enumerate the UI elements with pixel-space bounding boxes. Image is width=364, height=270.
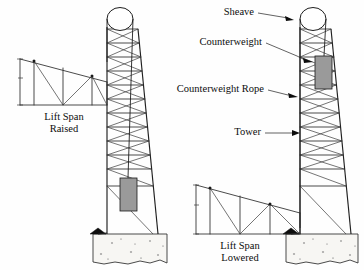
left-caption-line2: Raised — [50, 123, 79, 134]
left-counterweight — [120, 178, 137, 211]
right-counterweight — [315, 56, 332, 89]
callout-group: Sheave Counterweight Counterweight Rope … — [177, 6, 313, 137]
left-sheave — [107, 8, 133, 31]
right-caption-line1: Lift Span — [220, 240, 260, 251]
right-lift-span-truss — [193, 185, 300, 234]
figure-root: Lift Span Raised — [0, 0, 364, 270]
bridge-diagram: Lift Span Raised — [0, 0, 364, 270]
right-caption-line2: Lowered — [221, 252, 259, 263]
callout-counterweight: Counterweight — [200, 36, 313, 63]
right-sheave — [300, 8, 326, 31]
left-caption-line1: Lift Span — [44, 111, 84, 122]
left-lift-span-truss — [17, 59, 107, 105]
callout-counterweight-label: Counterweight — [200, 36, 262, 47]
callout-tower-label: Tower — [234, 126, 261, 137]
callout-tower: Tower — [234, 126, 300, 137]
right-counterweight-rope — [300, 19, 326, 228]
callout-sheave-label: Sheave — [224, 6, 255, 17]
callout-counterweight-rope-label: Counterweight Rope — [177, 83, 265, 94]
left-assembly: Lift Span Raised — [17, 8, 167, 265]
callout-sheave: Sheave — [224, 6, 294, 21]
callout-counterweight-rope: Counterweight Rope — [177, 83, 298, 98]
